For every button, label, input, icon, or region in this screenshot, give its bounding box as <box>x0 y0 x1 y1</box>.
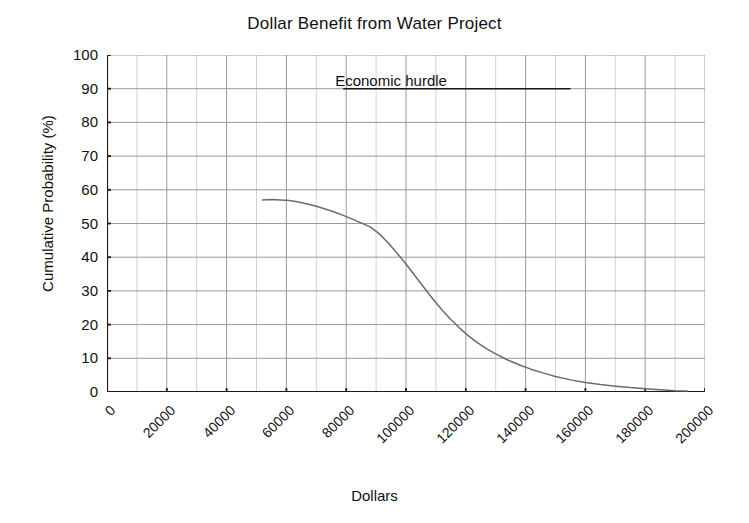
y-tick-label: 90 <box>38 80 98 97</box>
chart-figure: Dollar Benefit from Water Project Cumula… <box>0 0 749 523</box>
y-tick-label: 10 <box>38 349 98 366</box>
y-tick-label: 60 <box>38 181 98 198</box>
y-tick-label: 20 <box>38 316 98 333</box>
y-tick-label: 100 <box>38 46 98 63</box>
y-tick-label: 0 <box>38 383 98 400</box>
plot-area <box>107 55 705 392</box>
y-tick-label: 50 <box>38 215 98 232</box>
x-tick-label: 0 <box>0 402 118 523</box>
y-tick-label: 80 <box>38 113 98 130</box>
y-tick-label: 30 <box>38 282 98 299</box>
plot-canvas <box>107 55 705 392</box>
data-line-0 <box>262 200 687 391</box>
chart-title: Dollar Benefit from Water Project <box>0 14 749 34</box>
y-tick-label: 40 <box>38 248 98 265</box>
annotation-label-economic-hurdle: Economic hurdle <box>335 72 447 89</box>
y-tick-label: 70 <box>38 147 98 164</box>
